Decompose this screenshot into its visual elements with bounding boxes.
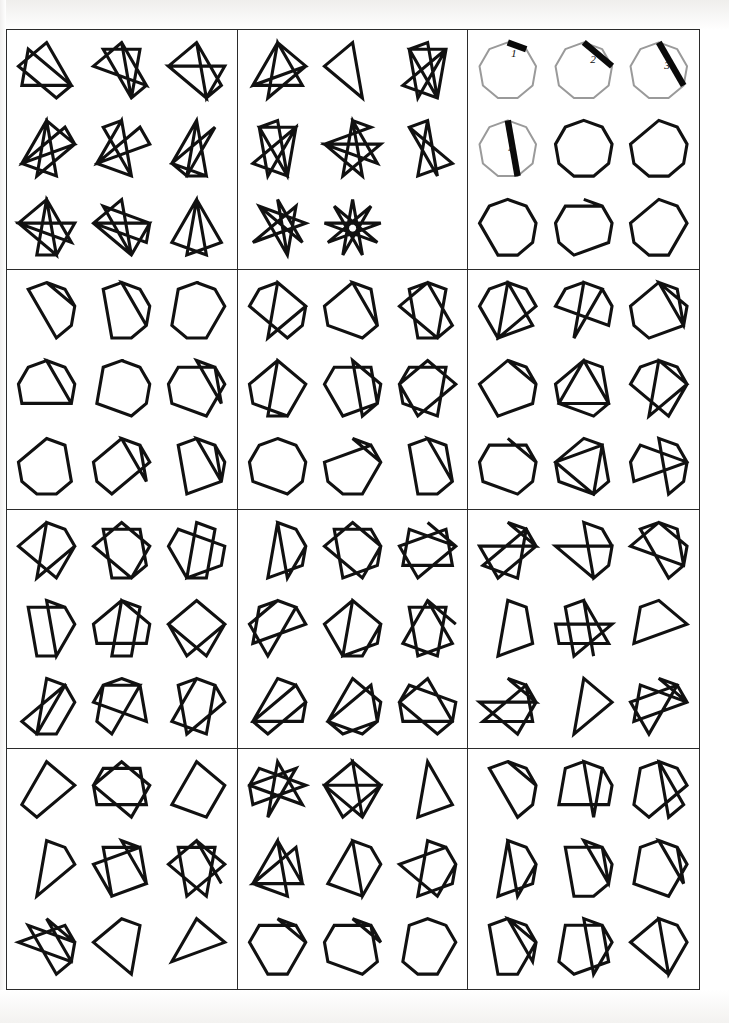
panel-r1c1 [7, 30, 238, 270]
star-polygon-path [555, 439, 608, 495]
star-polygon-path [400, 282, 453, 337]
star-polygon-path [253, 679, 306, 734]
star-polygon-path [634, 600, 687, 643]
star-polygon-path [94, 199, 150, 254]
fig-9-9 [621, 668, 697, 746]
fig-6-9 [621, 428, 697, 506]
fig-5-4 [240, 350, 315, 428]
fig-11-9 [390, 908, 465, 987]
star-polygon-path [324, 282, 377, 337]
cell-grid [470, 512, 697, 747]
fig-8-2 [315, 512, 390, 590]
fig-10-2 [84, 751, 159, 830]
star-polygon-path [94, 762, 150, 817]
fig-7-7 [9, 668, 84, 746]
star-polygon-path [169, 522, 225, 577]
page-canvas: 1234 [0, 0, 729, 1023]
fig-6-3 [621, 272, 697, 350]
star-polygon-path [94, 600, 150, 655]
star-polygon-path [490, 762, 537, 818]
fig-5-8 [315, 428, 390, 506]
star-polygon-path [169, 600, 225, 655]
star-polygon-path [169, 361, 225, 416]
star-polygon-path [172, 121, 215, 176]
fig-9-8 [546, 668, 622, 746]
fig-7-2 [84, 512, 159, 590]
star-polygon-path [97, 361, 150, 416]
fig-6-1 [470, 272, 546, 350]
star-polygon-path [631, 121, 688, 177]
star-polygon-path [18, 361, 74, 404]
star-polygon-path [324, 600, 380, 655]
fig-9-7 [470, 668, 546, 746]
cell-grid [240, 272, 466, 507]
star-polygon-path [631, 919, 688, 975]
star-polygon-path [480, 199, 537, 255]
star-polygon-path [480, 439, 537, 495]
star-polygon-path [172, 762, 225, 817]
cell-grid [470, 272, 697, 507]
fig-6-4 [470, 350, 546, 428]
star-polygon-path [249, 282, 305, 337]
fig-8-7 [240, 668, 315, 746]
fig-1-8 [84, 189, 159, 267]
fig-10-1 [9, 751, 84, 830]
star-polygon-path [555, 522, 612, 578]
fig-2-2 [315, 32, 390, 110]
fig-10-6 [159, 830, 234, 909]
panel-r2c1 [7, 270, 238, 510]
fig-1-5 [84, 110, 159, 188]
star-polygon-path [172, 919, 225, 962]
star-polygon-path [28, 282, 75, 337]
fig-3-9 [621, 189, 697, 267]
panel-r2c3 [468, 270, 699, 510]
star-polygon-path [498, 600, 533, 656]
fig-4-6 [159, 350, 234, 428]
star-polygon-path [94, 522, 150, 577]
fig-8-6 [390, 590, 465, 668]
star-polygon-path [94, 439, 150, 494]
star-polygon-path [172, 199, 222, 254]
fig-12-9 [621, 908, 697, 987]
star-polygon-path [498, 840, 536, 896]
fig-12-8 [546, 908, 622, 987]
cell-grid [9, 751, 235, 987]
reference-nonagon-outline [480, 42, 537, 98]
fig-11-1 [240, 751, 315, 830]
star-polygon-path [634, 840, 687, 896]
panel-grid: 1234 [7, 30, 699, 989]
plate-frame: 1234 [6, 29, 700, 990]
fig-2-1 [240, 32, 315, 110]
fig-12-5 [546, 830, 622, 909]
fig-4-4 [9, 350, 84, 428]
fig-1-9 [159, 189, 234, 267]
star-polygon-path [324, 522, 380, 577]
scan-edge-top [0, 0, 729, 30]
star-polygon-path [253, 121, 296, 176]
star-polygon-path [555, 121, 612, 177]
star-polygon-path [559, 762, 612, 818]
fig-4-5 [84, 350, 159, 428]
panel-r1c3: 1234 [468, 30, 699, 270]
reference-nonagon-outline [555, 42, 612, 98]
star-polygon-path [94, 841, 147, 896]
fig-8-9 [390, 668, 465, 746]
star-polygon-path [18, 43, 71, 98]
fig-10-8 [84, 908, 159, 987]
fig-11-7 [240, 908, 315, 987]
fig-12-7 [470, 908, 546, 987]
cell-grid: 1234 [470, 32, 697, 267]
fig-6-6 [621, 350, 697, 428]
star-polygon-path [97, 121, 150, 176]
fig-6-8 [546, 428, 622, 506]
panel-r4c2 [238, 749, 469, 989]
fig-8-4 [240, 590, 315, 668]
ref-step-2: 2 [546, 32, 622, 110]
star-polygon-path [400, 361, 456, 416]
cell-grid [9, 512, 235, 747]
fig-5-5 [315, 350, 390, 428]
star-polygon-path [631, 439, 688, 495]
star-polygon-path [409, 439, 452, 494]
star-polygon-path [555, 199, 612, 255]
fig-10-7 [9, 908, 84, 987]
